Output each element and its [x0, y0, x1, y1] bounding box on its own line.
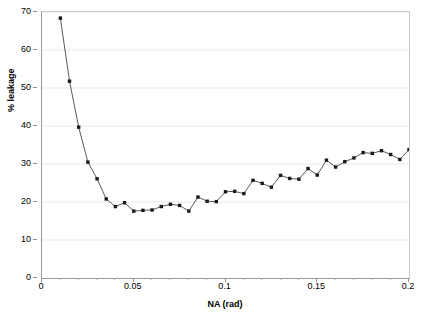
data-point-marker — [407, 148, 409, 151]
data-point-marker — [205, 200, 208, 203]
data-point-marker — [279, 174, 282, 177]
x-tick-minor-mark — [261, 278, 262, 280]
leakage-vs-na-chart: % leakage 010203040506070 00.050.10.150.… — [0, 0, 421, 319]
data-point-marker — [86, 160, 89, 163]
x-tick-minor-mark — [280, 278, 281, 280]
data-point-marker — [150, 208, 153, 211]
x-tick-minor-mark — [206, 278, 207, 280]
data-point-marker — [270, 185, 273, 188]
data-point-marker — [288, 177, 291, 180]
gridlines — [42, 12, 409, 240]
y-tick-label: 50 — [21, 83, 31, 92]
data-point-marker — [59, 16, 62, 19]
x-tick-label: 0.2 — [402, 282, 415, 291]
x-tick-mark — [41, 278, 42, 282]
x-axis-title: NA (rad) — [207, 299, 242, 309]
data-point-marker — [389, 153, 392, 156]
data-point-marker — [306, 167, 309, 170]
data-point-marker — [215, 200, 218, 203]
data-point-marker — [316, 173, 319, 176]
data-point-marker — [233, 190, 236, 193]
x-tick-minor-mark — [371, 278, 372, 280]
x-tick-label: 0 — [38, 282, 43, 291]
data-point-marker — [187, 209, 190, 212]
y-tick-label: 60 — [21, 45, 31, 54]
x-tick-minor-mark — [243, 278, 244, 280]
data-point-marker — [297, 178, 300, 181]
x-tick-label: 0.05 — [124, 282, 142, 291]
data-point-marker — [196, 195, 199, 198]
data-point-marker — [242, 192, 245, 195]
data-point-marker — [141, 209, 144, 212]
y-tick-label: 30 — [21, 159, 31, 168]
x-tick-minor-mark — [335, 278, 336, 280]
data-markers — [59, 16, 409, 212]
x-tick-minor-mark — [353, 278, 354, 280]
data-point-marker — [132, 209, 135, 212]
x-tick-mark — [408, 278, 409, 282]
x-tick-minor-mark — [169, 278, 170, 280]
x-tick-label: 0.15 — [307, 282, 325, 291]
data-point-marker — [169, 203, 172, 206]
data-point-marker — [224, 190, 227, 193]
data-point-marker — [251, 179, 254, 182]
data-point-marker — [123, 201, 126, 204]
data-point-marker — [361, 151, 364, 154]
x-tick-minor-mark — [114, 278, 115, 280]
y-tick-label: 0 — [26, 273, 31, 282]
y-tick-label: 40 — [21, 121, 31, 130]
y-tick-mark — [33, 277, 37, 278]
data-point-marker — [343, 160, 346, 163]
x-tick-minor-mark — [390, 278, 391, 280]
y-tick-label: 10 — [21, 235, 31, 244]
x-tick-minor-mark — [59, 278, 60, 280]
y-tick-mark — [33, 87, 37, 88]
y-tick-mark — [33, 201, 37, 202]
y-tick-mark — [33, 163, 37, 164]
data-point-marker — [178, 204, 181, 207]
x-tick-minor-mark — [188, 278, 189, 280]
plot-area — [41, 11, 410, 279]
x-tick-mark — [133, 278, 134, 282]
data-point-marker — [160, 205, 163, 208]
y-tick-label: 20 — [21, 197, 31, 206]
data-point-marker — [352, 156, 355, 159]
y-tick-mark — [33, 11, 37, 12]
data-line — [60, 18, 409, 211]
data-point-marker — [371, 152, 374, 155]
y-tick-mark — [33, 239, 37, 240]
data-point-marker — [380, 149, 383, 152]
x-tick-minor-mark — [151, 278, 152, 280]
data-point-marker — [325, 159, 328, 162]
data-point-marker — [68, 79, 71, 82]
data-point-marker — [261, 182, 264, 185]
plot-svg — [42, 12, 409, 278]
data-point-marker — [95, 177, 98, 180]
data-point-marker — [398, 158, 401, 161]
data-point-marker — [114, 205, 117, 208]
y-tick-mark — [33, 125, 37, 126]
x-tick-mark — [316, 278, 317, 282]
x-tick-minor-mark — [298, 278, 299, 280]
y-tick-label: 70 — [21, 7, 31, 16]
data-point-marker — [334, 165, 337, 168]
x-tick-mark — [225, 278, 226, 282]
x-tick-minor-mark — [96, 278, 97, 280]
y-tick-mark — [33, 49, 37, 50]
y-axis-tick-labels: 010203040506070 — [0, 0, 37, 319]
data-point-marker — [77, 125, 80, 128]
x-tick-label: 0.1 — [218, 282, 231, 291]
data-point-marker — [105, 197, 108, 200]
x-tick-minor-mark — [78, 278, 79, 280]
